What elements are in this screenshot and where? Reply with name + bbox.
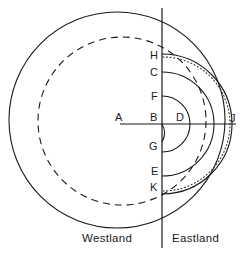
- point-label-J: J: [230, 113, 236, 124]
- point-label-E: E: [151, 166, 159, 177]
- region-label-eastland: Eastland: [172, 232, 219, 244]
- point-label-K: K: [150, 182, 158, 193]
- point-label-H: H: [150, 50, 158, 61]
- point-label-C: C: [150, 67, 158, 78]
- point-label-F: F: [151, 91, 158, 102]
- point-label-G: G: [149, 141, 158, 152]
- point-label-A: A: [115, 112, 123, 123]
- arc-diagram-svg: [0, 0, 242, 253]
- region-label-westland: Westland: [82, 232, 132, 244]
- point-label-B: B: [150, 112, 158, 123]
- point-label-D: D: [176, 112, 184, 123]
- diagram-canvas: A H C F B D J G E K Westland Eastland: [0, 0, 242, 253]
